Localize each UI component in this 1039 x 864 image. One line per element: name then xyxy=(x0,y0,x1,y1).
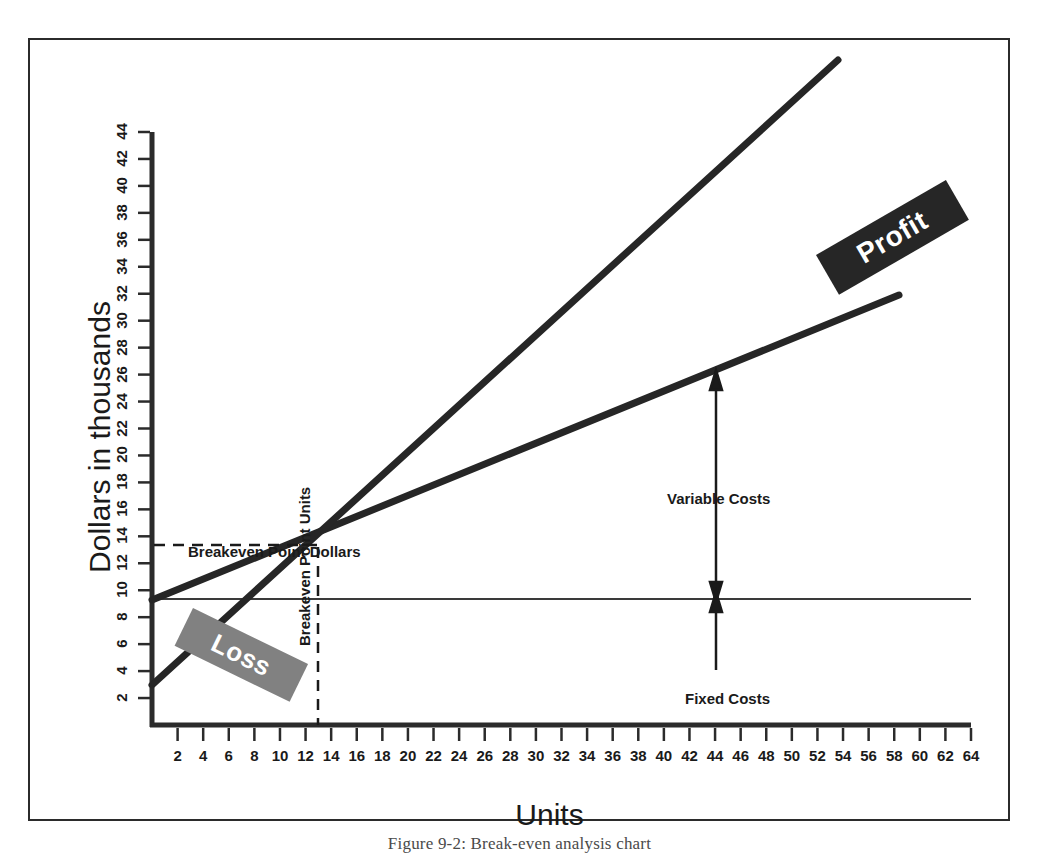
breakeven-point-dollars-label: Breakeven Point Dollars xyxy=(188,543,361,560)
figure-caption: Figure 9-2: Break-even analysis chart xyxy=(0,834,1039,854)
x-tick-label: 64 xyxy=(956,747,986,764)
fixed-costs-arrow xyxy=(710,592,722,670)
x-axis-title: Units xyxy=(30,798,1039,832)
fixed-costs-label: Fixed Costs xyxy=(685,690,770,707)
y-axis-title: Dollars in thousands xyxy=(83,227,117,647)
y-tick-label: 44 xyxy=(113,115,130,149)
breakeven-chart xyxy=(30,40,1008,819)
variable-costs-label: Variable Costs xyxy=(667,490,770,507)
x-axis-ticks xyxy=(178,728,971,741)
figure-frame: 2468101214161820222426283032343638404244… xyxy=(28,38,1010,821)
total-revenue-line xyxy=(152,60,838,685)
y-axis-ticks xyxy=(138,132,150,698)
variable-costs-arrow xyxy=(710,370,722,602)
breakeven-point-units-label: Breakeven Point Units xyxy=(296,487,313,646)
